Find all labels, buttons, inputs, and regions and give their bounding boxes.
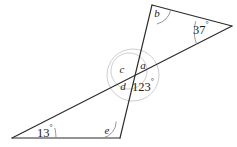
angle-c-label: c xyxy=(116,62,128,76)
angle-b-label: b xyxy=(150,6,164,20)
angle-37-value: 37 xyxy=(193,23,206,37)
angle-13-arc xyxy=(55,128,56,138)
top-line xyxy=(152,5,232,26)
angle-37-label: 37° xyxy=(193,20,209,38)
angle-13-value: 13 xyxy=(37,126,50,140)
angle-13-label: 13° xyxy=(37,123,53,141)
angle-e-label: e xyxy=(101,123,113,137)
angle-37-degree-symbol: ° xyxy=(206,20,209,29)
angle-d-label: d xyxy=(117,79,129,93)
geometry-diagram: b 37° a c d 123° 13° e xyxy=(0,0,237,147)
angle-123-value: 123 xyxy=(132,80,151,94)
angle-a-label: a xyxy=(137,58,149,72)
angle-123-label: 123° xyxy=(132,77,154,95)
angle-13-degree-symbol: ° xyxy=(50,123,53,132)
angle-123-degree-symbol: ° xyxy=(151,77,154,86)
